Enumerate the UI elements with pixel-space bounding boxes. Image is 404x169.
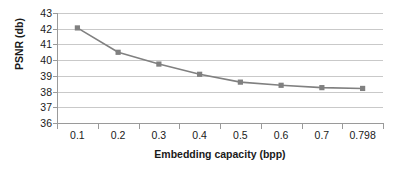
x-axis-tick-mark: [57, 124, 58, 129]
x-axis-tick-label: 0.798: [340, 130, 386, 142]
x-axis-tick-label: 0.3: [136, 130, 182, 142]
psnr-vs-embedding-capacity-chart: PSNR (db) 4342414039383736 Embedding cap…: [0, 0, 404, 169]
y-axis-tick-mark: [53, 13, 57, 14]
y-axis-tick-mark: [53, 76, 57, 77]
x-axis-tick-mark: [220, 124, 221, 129]
x-axis-tick-mark: [383, 124, 384, 129]
x-axis-tick-label: 0.6: [258, 130, 304, 142]
y-axis-tick-mark: [53, 107, 57, 108]
x-axis-tick-label: 0.1: [54, 130, 100, 142]
x-axis-tick-mark: [98, 124, 99, 129]
data-point-marker: [75, 25, 80, 30]
data-point-marker: [197, 72, 202, 77]
data-point-marker: [238, 80, 243, 85]
x-axis-tick-label: 0.4: [177, 130, 223, 142]
x-axis-tick-label: 0.2: [95, 130, 141, 142]
x-axis-tick-mark: [302, 124, 303, 129]
y-axis-tick-mark: [53, 29, 57, 30]
data-point-marker: [116, 50, 121, 55]
x-axis-title: Embedding capacity (bpp): [57, 148, 383, 160]
y-axis-tick-mark: [53, 92, 57, 93]
x-axis-tick-mark: [342, 124, 343, 129]
series-line-psnr: [0, 0, 404, 169]
y-axis-tick-mark: [53, 60, 57, 61]
data-point-marker: [156, 61, 161, 66]
x-axis-tick-mark: [179, 124, 180, 129]
x-axis-tick-mark: [261, 124, 262, 129]
x-axis-tick-label: 0.7: [299, 130, 345, 142]
series-line: [77, 28, 362, 89]
y-axis-tick-mark: [53, 44, 57, 45]
data-point-marker: [279, 83, 284, 88]
x-axis-tick-label: 0.5: [217, 130, 263, 142]
data-point-marker: [319, 85, 324, 90]
x-axis-tick-mark: [139, 124, 140, 129]
data-point-marker: [360, 86, 365, 91]
